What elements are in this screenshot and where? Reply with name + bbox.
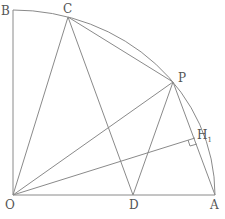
label-B: B (1, 5, 10, 17)
segment-PO (13, 82, 173, 195)
segment-CP (68, 17, 173, 82)
geometry-diagram (0, 0, 225, 219)
segment-CD (68, 17, 133, 195)
label-H1: H1 (197, 129, 212, 144)
label-D: D (129, 199, 139, 211)
label-A: A (210, 199, 219, 211)
label-H-subscript: 1 (207, 136, 211, 144)
label-O: O (5, 199, 15, 211)
segment-OH1 (13, 138, 195, 195)
arc-BA (13, 10, 215, 195)
segment-PD (133, 82, 173, 195)
label-H: H (197, 128, 207, 142)
label-P: P (178, 72, 186, 84)
segment-CO (13, 17, 68, 195)
label-C: C (63, 3, 72, 15)
footer-text-cutoff: … (0, 212, 225, 219)
